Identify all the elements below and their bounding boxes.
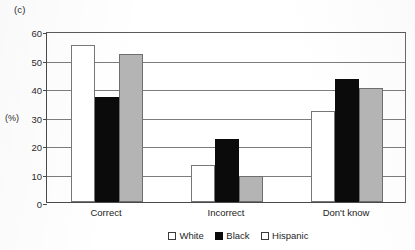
filled-square-icon [215,232,223,240]
legend-item-black: Black [215,230,250,241]
chart-plot-area: 0102030405060 [46,32,406,203]
bar-black-incorrect [215,139,239,202]
y-axis-tick-label: 40 [31,85,42,96]
bar-hispanic-don-t-know [359,88,383,202]
bar-groups [47,33,405,202]
y-axis-unit-label: (%) [5,113,19,123]
y-axis-tick-label: 20 [31,142,42,153]
legend-item-white: White [168,230,204,241]
legend-item-hispanic: Hispanic [261,230,309,241]
hollow-square-icon [168,232,176,240]
bar-white-incorrect [191,165,215,202]
y-axis-tick-label: 30 [31,113,42,124]
bar-black-correct [95,97,119,202]
legend-item-label: White [180,230,204,241]
chart-legend: WhiteBlackHispanic [168,230,308,241]
y-axis-tick-label: 50 [31,56,42,67]
y-axis-tick-label: 0 [37,199,42,210]
bar-black-don-t-know [335,79,359,202]
bar-group [287,33,407,202]
bar-white-don-t-know [311,111,335,202]
x-axis-category-label: Don't know [323,207,370,218]
bar-hispanic-incorrect [239,176,263,202]
y-axis-tick-mark [43,204,47,205]
panel-label: (c) [14,4,26,15]
bar-hispanic-correct [119,54,143,202]
bar-white-correct [71,45,95,202]
legend-item-label: Hispanic [272,230,308,241]
bar-group [167,33,287,202]
hollow-square-icon [261,232,269,240]
x-axis-category-label: Incorrect [208,207,245,218]
legend-item-label: Black [226,230,249,241]
x-axis-category-label: Correct [90,207,121,218]
bar-group [47,33,167,202]
y-axis-tick-label: 60 [31,28,42,39]
y-axis-tick-label: 10 [31,170,42,181]
